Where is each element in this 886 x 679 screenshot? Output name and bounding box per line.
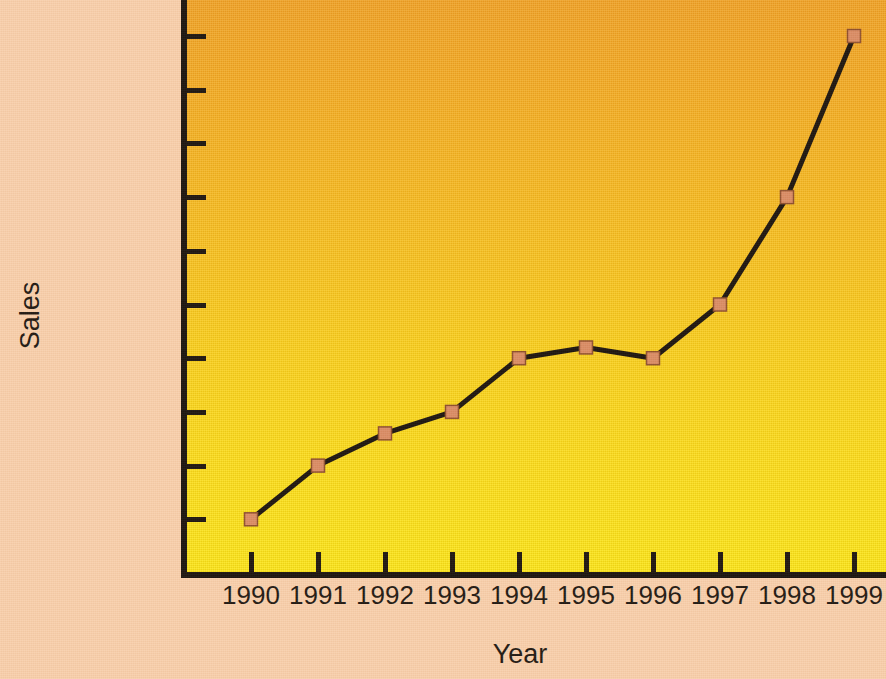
x-axis-tick — [584, 552, 589, 573]
y-axis-tick — [187, 464, 206, 469]
x-axis-tick-label: 1999 — [809, 580, 886, 611]
x-axis-title: Year — [430, 639, 610, 670]
y-axis-tick — [187, 195, 206, 200]
x-axis-tick — [450, 552, 455, 573]
x-axis-tick — [517, 552, 522, 573]
y-axis-tick — [187, 303, 206, 308]
plot-area — [186, 0, 886, 573]
x-axis-tick — [718, 552, 723, 573]
x-axis-tick — [651, 552, 656, 573]
x-axis-line — [181, 572, 886, 578]
x-axis-tick — [785, 552, 790, 573]
y-axis-tick — [187, 34, 206, 39]
y-axis-tick — [187, 517, 206, 522]
y-axis-tick — [187, 356, 206, 361]
y-axis-tick — [187, 88, 206, 93]
y-axis-tick — [187, 249, 206, 254]
x-axis-tick — [249, 552, 254, 573]
x-axis-tick — [852, 552, 857, 573]
y-axis-tick — [187, 141, 206, 146]
x-axis-tick — [383, 552, 388, 573]
y-axis-line — [181, 0, 187, 578]
line-chart-figure: 1002003004005006007008009001 million 199… — [0, 0, 886, 679]
y-axis-title: Sales — [15, 256, 46, 376]
x-axis-tick — [316, 552, 321, 573]
y-axis-tick — [187, 410, 206, 415]
plot-background-texture — [186, 0, 886, 573]
